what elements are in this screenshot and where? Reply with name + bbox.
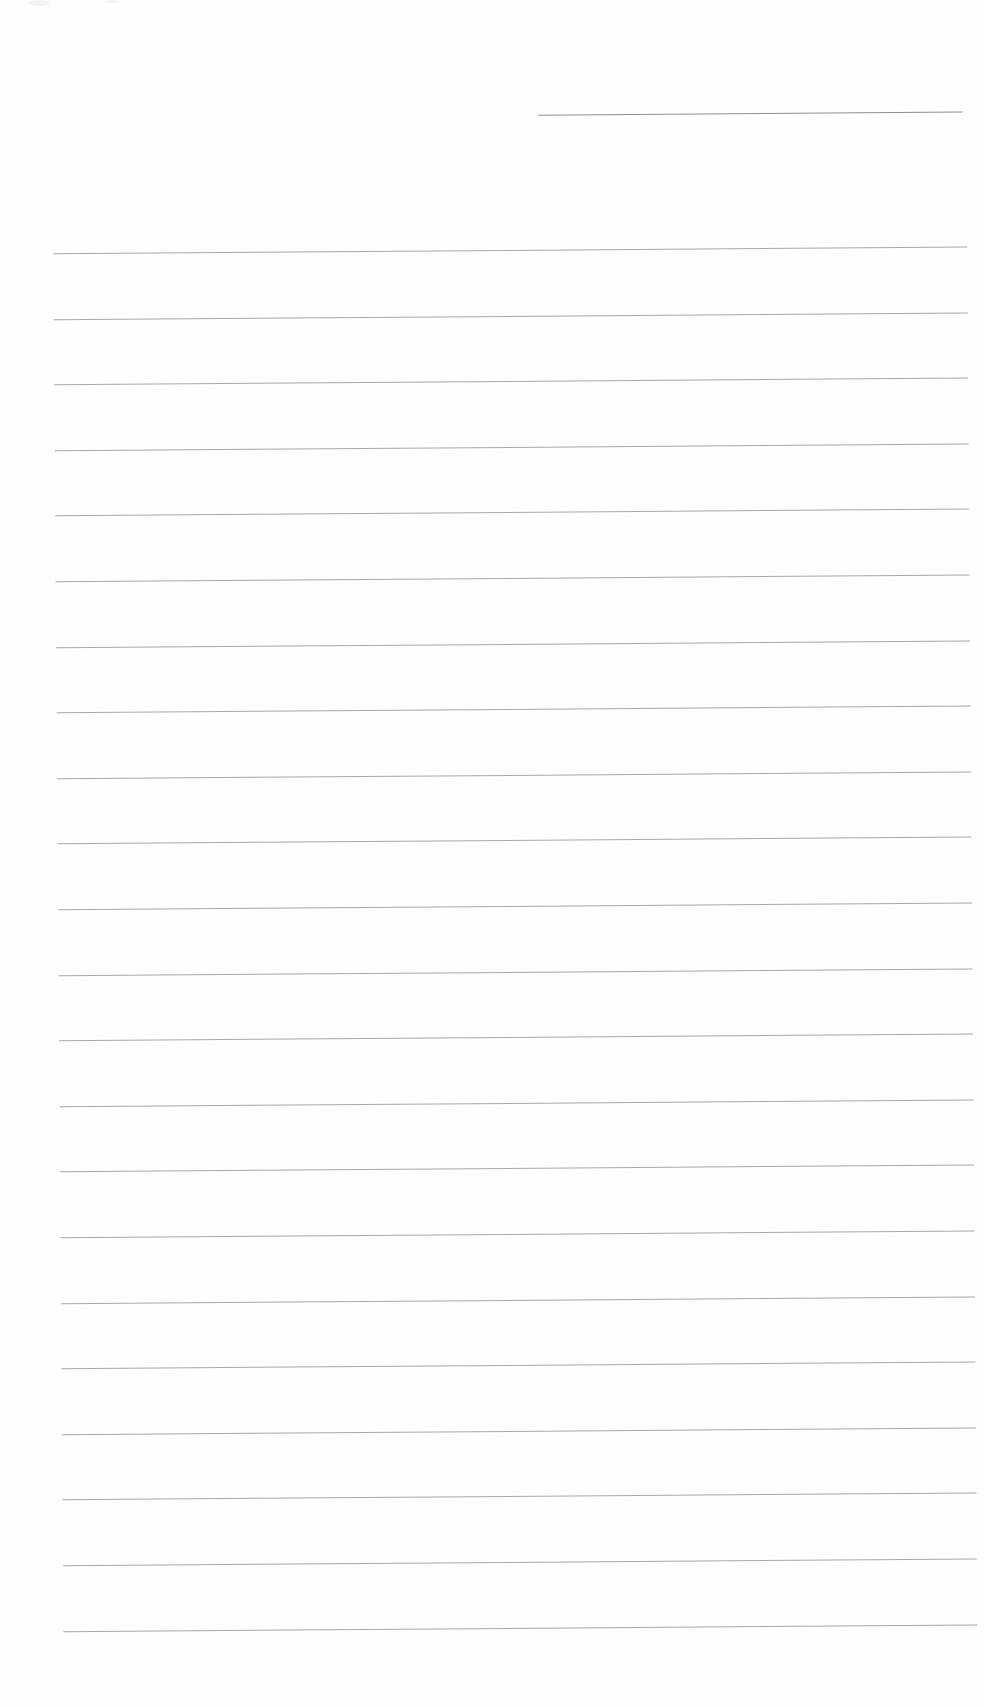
ruled-line (59, 1100, 973, 1108)
ruled-line (57, 706, 971, 714)
ruled-line (62, 1493, 976, 1501)
ruled-line (63, 1559, 977, 1567)
ruled-line (53, 247, 967, 255)
ruled-line (55, 509, 969, 517)
ruled-line (60, 1165, 974, 1173)
ruled-line (58, 903, 972, 911)
ruled-line (61, 1362, 975, 1370)
ruled-line (56, 575, 970, 583)
ruled-line (59, 1034, 973, 1042)
ruled-line (63, 1625, 977, 1633)
lined-paper-page (0, 0, 984, 1707)
ruled-line (54, 378, 968, 386)
ruled-line (57, 772, 971, 780)
ruled-line (60, 1231, 974, 1239)
header-line (538, 112, 962, 116)
ruled-line (54, 313, 968, 321)
ruled-line (55, 444, 969, 452)
ruled-lines (0, 0, 984, 1707)
ruled-line (59, 969, 973, 977)
ruled-line (61, 1297, 975, 1305)
ruled-line (56, 641, 970, 649)
ruled-line (58, 837, 972, 845)
ruled-line (62, 1428, 976, 1436)
